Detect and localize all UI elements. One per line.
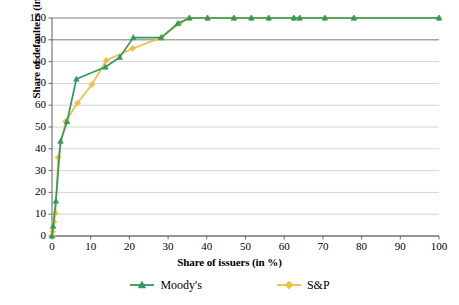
x-tick-label: 40 bbox=[192, 240, 222, 252]
x-tick-label: 30 bbox=[153, 240, 183, 252]
x-tick-label: 0 bbox=[37, 240, 67, 252]
legend-label: Moody's bbox=[160, 279, 202, 291]
x-tick-label: 90 bbox=[385, 240, 415, 252]
plot-svg bbox=[52, 18, 439, 236]
y-tick-label: 80 bbox=[18, 56, 46, 67]
triangle-marker-icon bbox=[129, 279, 155, 291]
y-tick-label: 60 bbox=[18, 99, 46, 110]
x-tick-label: 100 bbox=[424, 240, 454, 252]
diamond-marker-icon bbox=[276, 279, 302, 291]
y-tick-label: 30 bbox=[18, 165, 46, 176]
y-tick-label: 10 bbox=[18, 208, 46, 219]
y-tick-label: 40 bbox=[18, 143, 46, 154]
plot-area bbox=[52, 18, 439, 236]
x-tick-label: 50 bbox=[231, 240, 261, 252]
y-tick-label: 20 bbox=[18, 186, 46, 197]
y-tick-label: 90 bbox=[18, 34, 46, 45]
y-tick-label: 50 bbox=[18, 121, 46, 132]
legend-item-moodys[interactable]: Moody's bbox=[129, 279, 202, 291]
y-tick-label: 100 bbox=[18, 12, 46, 23]
cap-curve-chart: Share of defaulters (in %) 0102030405060… bbox=[0, 0, 459, 305]
legend-label: S&P bbox=[307, 279, 330, 291]
x-tick-label: 20 bbox=[114, 240, 144, 252]
legend-item-sp[interactable]: S&P bbox=[276, 279, 330, 291]
chart-legend: Moody'sS&P bbox=[0, 279, 459, 291]
x-axis-title: Share of issuers (in %) bbox=[0, 256, 459, 268]
y-tick-label: 70 bbox=[18, 77, 46, 88]
x-tick-label: 80 bbox=[347, 240, 377, 252]
data-point-marker bbox=[285, 281, 293, 289]
x-tick-label: 70 bbox=[308, 240, 338, 252]
x-tick-label: 60 bbox=[269, 240, 299, 252]
x-tick-label: 10 bbox=[76, 240, 106, 252]
